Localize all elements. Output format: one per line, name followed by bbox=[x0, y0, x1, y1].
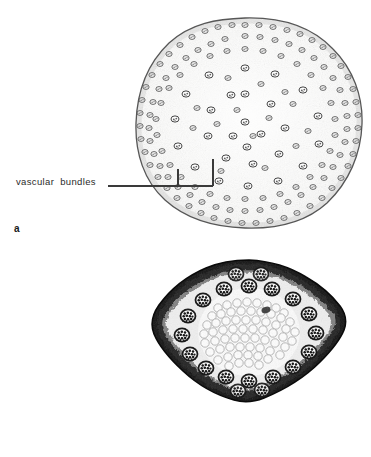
micrograph-stem-cross-section-b bbox=[150, 258, 348, 408]
annotation-label-a: vascular bundles bbox=[16, 177, 96, 187]
panel-b: vascular bundles b bbox=[0, 245, 371, 457]
figure-plate: vascular bundles a bbox=[0, 0, 371, 457]
panel-a: vascular bundles a bbox=[0, 0, 371, 245]
annotation-word-bundles: bundles bbox=[60, 176, 96, 187]
annotation-word-vascular: vascular bbox=[16, 176, 54, 187]
panel-letter-a: a bbox=[14, 224, 20, 234]
